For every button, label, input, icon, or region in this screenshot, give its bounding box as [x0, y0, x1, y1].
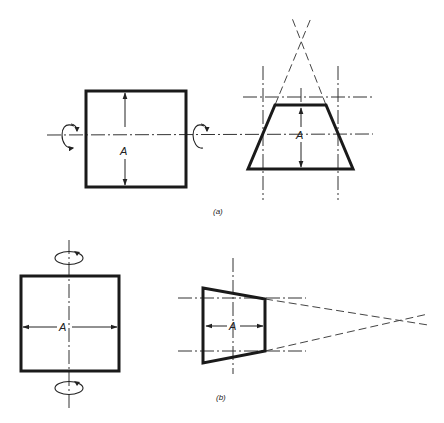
rotation-axis-centerline: [47, 134, 373, 135]
caption-a: (a): [213, 207, 223, 216]
convergence-line-bottom: [265, 314, 428, 351]
rotation-arrow-icon: [62, 124, 77, 148]
square-outline: [21, 276, 119, 371]
dimension-label-a: A: [228, 320, 236, 332]
convergence-line-right: [292, 18, 326, 105]
dimension-label-a: A: [119, 145, 127, 157]
convergence-line-left: [275, 18, 311, 105]
panel-b: A A (b): [21, 240, 428, 408]
square-outline: [86, 91, 186, 187]
caption-b: (b): [216, 393, 226, 402]
rotation-arrow-icon: [193, 124, 207, 148]
dimension-label-a: A: [58, 321, 66, 333]
dimension-label-a: A: [295, 129, 303, 141]
trapezoid-view-a: A: [243, 18, 373, 200]
panel-a: A A (a): [47, 18, 373, 216]
square-view-b: A: [21, 240, 119, 408]
trapezoid-view-b: A: [178, 258, 428, 374]
square-view-a: A: [86, 91, 186, 187]
convergence-line-top: [265, 299, 428, 325]
diagram-canvas: A A (a): [0, 0, 444, 423]
